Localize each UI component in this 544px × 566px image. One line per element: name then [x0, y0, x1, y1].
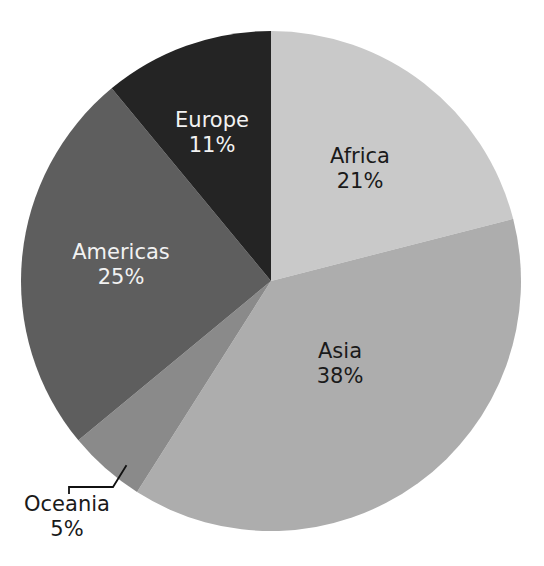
pie-chart-figure: Africa 21% Asia 38% Oceania 5% Americas … [0, 0, 544, 566]
slice-label-africa: Africa 21% [330, 144, 390, 193]
slice-label-europe-name: Europe [175, 108, 249, 132]
slice-label-asia-name: Asia [318, 339, 362, 363]
pie-chart-svg: Africa 21% Asia 38% Oceania 5% Americas … [0, 0, 544, 566]
slice-label-americas-name: Americas [72, 240, 170, 264]
slice-label-americas-percent: 25% [98, 265, 145, 289]
slice-label-oceania-percent: 5% [50, 517, 83, 541]
slice-label-asia: Asia 38% [317, 339, 364, 388]
slice-label-oceania-name: Oceania [24, 492, 110, 516]
slice-label-asia-percent: 38% [317, 364, 364, 388]
slice-label-europe-percent: 11% [189, 133, 236, 157]
slice-label-africa-name: Africa [330, 144, 390, 168]
slice-label-africa-percent: 21% [337, 169, 384, 193]
pie-slices-group [21, 31, 521, 531]
